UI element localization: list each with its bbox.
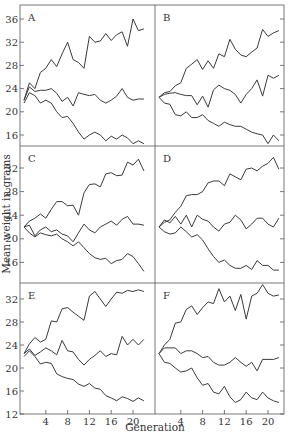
panel-label: E bbox=[28, 290, 35, 301]
y-tick-label: 20 bbox=[5, 106, 18, 117]
x-tick-label: 8 bbox=[199, 416, 205, 427]
series-selection-up bbox=[159, 29, 279, 97]
y-tick-label: 36 bbox=[5, 14, 18, 25]
figure-frame bbox=[20, 5, 284, 414]
panel-b: B bbox=[159, 12, 279, 144]
panel-a: A bbox=[24, 12, 144, 144]
series-selection-up bbox=[24, 19, 144, 100]
series-control bbox=[159, 215, 279, 231]
panels: ABCDEF bbox=[24, 12, 279, 403]
panel-f: F bbox=[159, 285, 279, 403]
panel-label: D bbox=[163, 153, 171, 164]
x-tick-label: 12 bbox=[83, 416, 96, 427]
axis-ticks bbox=[20, 19, 284, 414]
y-tick-label: 32 bbox=[5, 37, 18, 48]
panel-label: F bbox=[163, 290, 170, 301]
series-selection-down bbox=[24, 227, 144, 271]
x-tick-label: 16 bbox=[240, 416, 253, 427]
y-tick-label: 28 bbox=[5, 60, 18, 71]
panel-label: A bbox=[27, 12, 36, 23]
series-control bbox=[24, 87, 144, 106]
series-control bbox=[24, 216, 144, 241]
y-tick-label: 24 bbox=[5, 340, 18, 351]
figure: 1620242832361620242832121620242832481216… bbox=[0, 0, 295, 435]
series-control bbox=[159, 75, 279, 107]
y-axis-label: Mean weight in grams bbox=[0, 154, 12, 274]
axis-tick-labels: 1620242832361620242832121620242832481216… bbox=[5, 14, 274, 428]
x-axis-label: Generation bbox=[125, 421, 185, 433]
panel-label: C bbox=[28, 153, 36, 164]
panel-c: C bbox=[24, 153, 144, 271]
y-tick-label: 12 bbox=[5, 409, 18, 420]
y-tick-label: 32 bbox=[5, 294, 18, 305]
series-control bbox=[159, 348, 279, 371]
panel-label: B bbox=[163, 12, 170, 23]
series-selection-up bbox=[159, 157, 279, 227]
series-selection-up bbox=[24, 290, 144, 354]
panel-e: E bbox=[24, 290, 144, 402]
x-tick-label: 8 bbox=[64, 416, 70, 427]
x-tick-label: 16 bbox=[105, 416, 118, 427]
y-tick-label: 28 bbox=[5, 317, 18, 328]
series-selection-down bbox=[24, 351, 144, 402]
series-selection-down bbox=[159, 97, 279, 143]
series-control bbox=[24, 336, 144, 365]
x-tick-label: 12 bbox=[218, 416, 231, 427]
panel-d: D bbox=[159, 153, 279, 270]
series-selection-down bbox=[159, 227, 279, 270]
y-tick-label: 16 bbox=[5, 130, 18, 141]
series-selection-down bbox=[24, 93, 144, 144]
series-selection-down bbox=[159, 354, 279, 403]
series-selection-up bbox=[159, 285, 279, 354]
y-tick-label: 20 bbox=[5, 363, 18, 374]
x-tick-label: 20 bbox=[262, 416, 275, 427]
x-tick-label: 4 bbox=[43, 416, 49, 427]
y-tick-label: 16 bbox=[5, 386, 18, 397]
y-tick-label: 24 bbox=[5, 83, 18, 94]
panel-frames bbox=[20, 5, 284, 414]
